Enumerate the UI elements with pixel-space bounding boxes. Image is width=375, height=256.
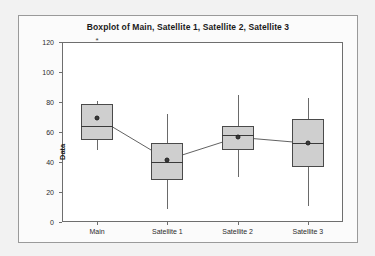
x-tick-mark <box>308 222 309 225</box>
y-tick-mark <box>59 222 62 223</box>
mean-marker <box>305 141 310 146</box>
x-tick-label: Satellite 3 <box>293 228 324 235</box>
x-tick-label: Satellite 1 <box>152 228 183 235</box>
chart-title: Boxplot of Main, Satellite 1, Satellite … <box>18 22 358 32</box>
mean-marker <box>165 157 170 162</box>
y-tick-label: 100 <box>42 69 54 76</box>
box <box>81 104 113 140</box>
y-tick-label: 80 <box>46 99 54 106</box>
x-tick-mark <box>97 222 98 225</box>
mean-marker <box>95 115 100 120</box>
x-tick-label: Satellite 2 <box>222 228 253 235</box>
y-tick-label: 60 <box>46 129 54 136</box>
mean-marker <box>235 135 240 140</box>
y-tick-label: 20 <box>46 189 54 196</box>
x-tick-label: Main <box>90 228 105 235</box>
outlier-marker: * <box>96 37 99 45</box>
figure-canvas: Boxplot of Main, Satellite 1, Satellite … <box>0 0 375 256</box>
y-tick-label: 120 <box>42 39 54 46</box>
median-line <box>81 126 113 127</box>
y-tick-label: 40 <box>46 159 54 166</box>
plot-area: Data 020406080100120 MainSatellite 1Sate… <box>62 42 343 222</box>
y-tick-label: 0 <box>50 219 54 226</box>
x-tick-mark <box>167 222 168 225</box>
x-tick-mark <box>238 222 239 225</box>
